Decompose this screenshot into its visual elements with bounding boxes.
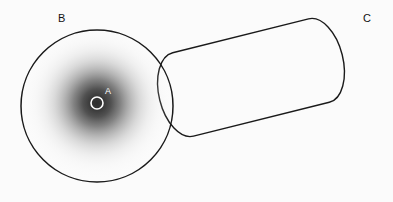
label-c: C [363, 12, 371, 24]
label-a: A [105, 86, 111, 96]
label-b: B [58, 12, 65, 24]
diagram-svg: A B C [0, 0, 393, 202]
diagram-canvas: A B C [0, 0, 393, 202]
